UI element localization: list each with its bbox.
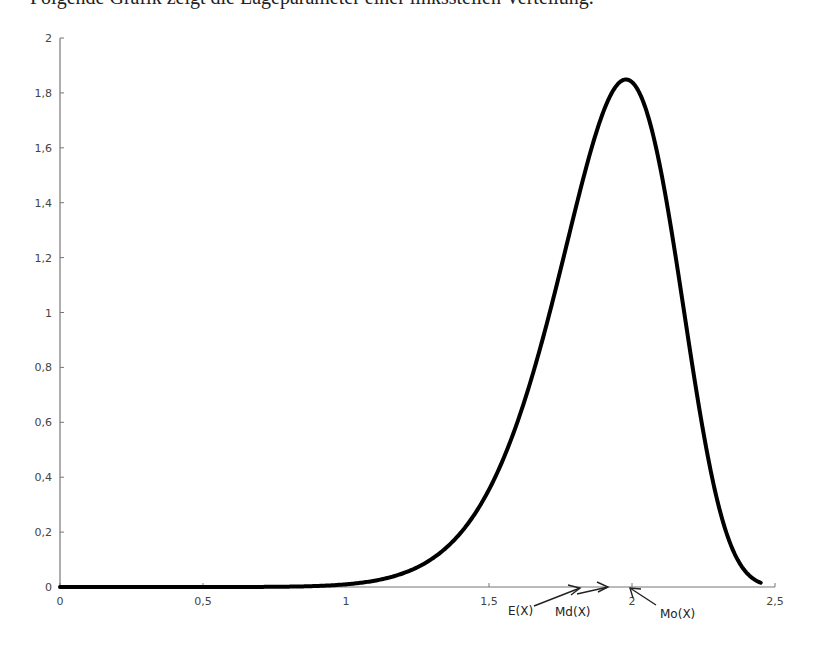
annotations: E(X) Md(X) Mo(X) — [508, 582, 695, 621]
y-tick-label: 1,6 — [35, 142, 53, 155]
y-tick-label: 2 — [45, 32, 52, 45]
mean-label: E(X) — [508, 604, 533, 618]
y-tick-label: 1,8 — [35, 87, 53, 100]
x-tick-label: 2,5 — [766, 595, 784, 608]
mean-arrow — [534, 585, 580, 606]
density-curve — [60, 79, 761, 587]
axes — [60, 38, 775, 587]
median-arrow — [577, 582, 608, 594]
y-tick-label: 1 — [45, 307, 52, 320]
density-chart: 00,20,40,60,811,21,41,61,82 00,511,522,5… — [0, 0, 815, 654]
x-tick-label: 1 — [343, 595, 350, 608]
y-tick-label: 0,8 — [35, 361, 53, 374]
y-tick-label: 1,4 — [35, 197, 53, 210]
x-tick-label: 1,5 — [480, 595, 498, 608]
y-tick-label: 0 — [45, 581, 52, 594]
y-tick-label: 1,2 — [35, 252, 53, 265]
y-tick-label: 0,6 — [35, 416, 53, 429]
y-tick-label: 0,2 — [35, 526, 53, 539]
x-tick-label: 0 — [57, 595, 64, 608]
x-tick-label: 0,5 — [194, 595, 212, 608]
mode-label: Mo(X) — [660, 607, 695, 621]
y-tick-label: 0,4 — [35, 471, 53, 484]
median-label: Md(X) — [555, 605, 591, 619]
